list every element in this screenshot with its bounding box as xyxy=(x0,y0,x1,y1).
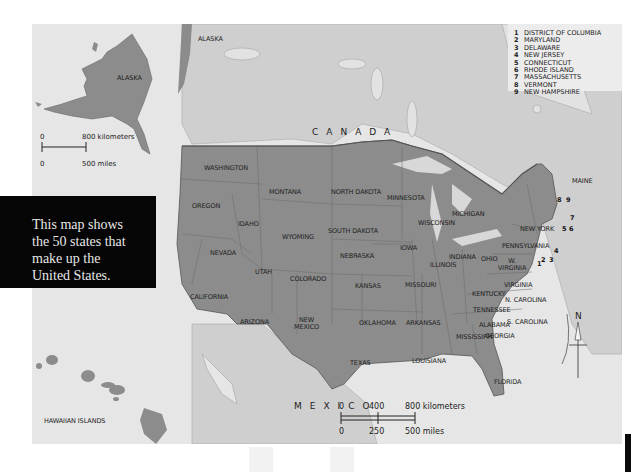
state-label-idaho: IDAHO xyxy=(238,221,259,228)
marker-4: 4 xyxy=(554,248,559,255)
marker-2: 2 xyxy=(541,257,546,264)
state-label-oklahoma: OKLAHOMA xyxy=(359,320,396,327)
marker-7: 7 xyxy=(570,215,575,222)
state-label-michigan: MICHIGAN xyxy=(452,211,484,218)
small-states-legend: 1DISTRICT OF COLUMBIA 2MARYLAND 3DELAWAR… xyxy=(508,24,622,91)
alaska-inset: ALASKA 0 800 kilometers xyxy=(32,24,160,156)
state-label-virginia: VIRGINIA xyxy=(504,282,532,289)
state-label-west-virginia: W. VIRGINIA xyxy=(498,258,526,271)
marker-5: 5 xyxy=(562,226,567,233)
alaska-scale-mi-zero: 0 xyxy=(40,160,44,168)
marker-8: 8 xyxy=(557,197,562,204)
state-label-alabama: ALABAMA xyxy=(479,322,510,329)
state-label-colorado: COLORADO xyxy=(290,276,326,283)
state-label-florida: FLORIDA xyxy=(494,379,521,386)
state-label-tennessee: TENNESSEE xyxy=(473,307,510,314)
north-arrow-icon: N xyxy=(568,310,588,380)
marker-6: 6 xyxy=(569,226,574,233)
caption-text: This map shows the 50 states that make u… xyxy=(32,216,126,284)
alaska-inset-label: ALASKA xyxy=(117,75,142,82)
new-mexico-line2: MEXICO xyxy=(294,323,319,331)
caption-line-2: the 50 states that xyxy=(32,233,126,250)
state-label-south-dakota: SOUTH DAKOTA xyxy=(328,228,378,235)
artifact-box xyxy=(330,447,354,472)
state-label-texas: TEXAS xyxy=(350,360,371,367)
main-scale-bar: 0 400 800 kilometers 0 250 500 miles xyxy=(339,402,479,442)
state-label-minnesota: MINNESOTA xyxy=(387,195,425,202)
scale-mi-500: 500 miles xyxy=(405,427,444,436)
alaska-main-label: ALASKA xyxy=(198,36,223,43)
hawaii-inset-label: HAWAIIAN ISLANDS xyxy=(44,418,105,425)
state-label-ohio: OHIO xyxy=(481,256,498,263)
state-label-oregon: OREGON xyxy=(192,203,220,210)
state-label-montana: MONTANA xyxy=(269,189,301,196)
canada-label: CANADA xyxy=(312,127,398,137)
state-label-iowa: IOWA xyxy=(400,245,417,252)
state-label-illinois: ILLINOIS xyxy=(430,262,456,269)
scale-km-800: 800 kilometers xyxy=(405,402,465,411)
state-label-kentucky: KENTUCKY xyxy=(472,291,506,298)
hawaii-inset: HAWAIIAN ISLANDS xyxy=(32,352,174,444)
state-label-kansas: KANSAS xyxy=(355,283,381,290)
scale-mi-0: 0 xyxy=(339,427,344,436)
artifact-box xyxy=(249,447,273,472)
caption-line-4: United States. xyxy=(32,267,126,284)
state-label-new-mexico: NEW MEXICO xyxy=(294,317,319,330)
compass-n-label: N xyxy=(575,311,582,321)
state-label-north-dakota: NORTH DAKOTA xyxy=(331,189,381,196)
caption-line-1: This map shows xyxy=(32,216,126,233)
hawaii-shape xyxy=(32,352,174,444)
state-label-pennsylvania: PENNSYLVANIA xyxy=(502,243,549,250)
state-label-indiana: INDIANA xyxy=(449,254,476,261)
marker-3: 3 xyxy=(549,257,554,264)
state-label-south-carolina: S. CAROLINA xyxy=(507,319,548,326)
marker-9: 9 xyxy=(566,197,571,204)
state-label-wyoming: WYOMING xyxy=(282,234,314,241)
scale-km-0: 0 xyxy=(339,402,344,411)
caption-line-3: make up the xyxy=(32,250,126,267)
west-virginia-line2: VIRGINIA xyxy=(498,264,526,272)
state-label-utah: UTAH xyxy=(255,269,272,276)
alaska-scale-km-label: 800 kilometers xyxy=(82,133,135,141)
caption-box: This map shows the 50 states that make u… xyxy=(0,196,156,288)
alaska-scale-km-0: 0 xyxy=(40,133,44,141)
state-label-nebraska: NEBRASKA xyxy=(340,253,374,260)
alaska-scale-mi-label: 500 miles xyxy=(82,160,116,168)
state-label-wisconsin: WISCONSIN xyxy=(418,220,455,227)
state-label-arkansas: ARKANSAS xyxy=(406,320,440,327)
edge-bar xyxy=(625,434,631,472)
state-label-washington: WASHINGTON xyxy=(204,165,248,172)
state-label-maine: MAINE xyxy=(572,178,592,185)
state-label-louisiana: LOUISIANA xyxy=(412,358,446,365)
scale-bar-graphic xyxy=(339,412,419,426)
scale-mi-250: 250 xyxy=(369,427,384,436)
legend-item: 9NEW HAMPSHIRE xyxy=(512,89,622,96)
state-label-arizona: ARIZONA xyxy=(240,319,269,326)
state-label-georgia: GEORGIA xyxy=(485,333,514,340)
state-label-california: CALIFORNIA xyxy=(190,294,228,301)
state-label-new-york: NEW YORK xyxy=(520,226,554,233)
state-label-nevada: NEVADA xyxy=(210,250,236,257)
state-label-missouri: MISSOURI xyxy=(405,282,436,289)
state-label-north-carolina: N. CAROLINA xyxy=(505,297,546,304)
scale-km-400: 400 xyxy=(369,402,384,411)
alaska-scale-graphic xyxy=(40,142,88,152)
